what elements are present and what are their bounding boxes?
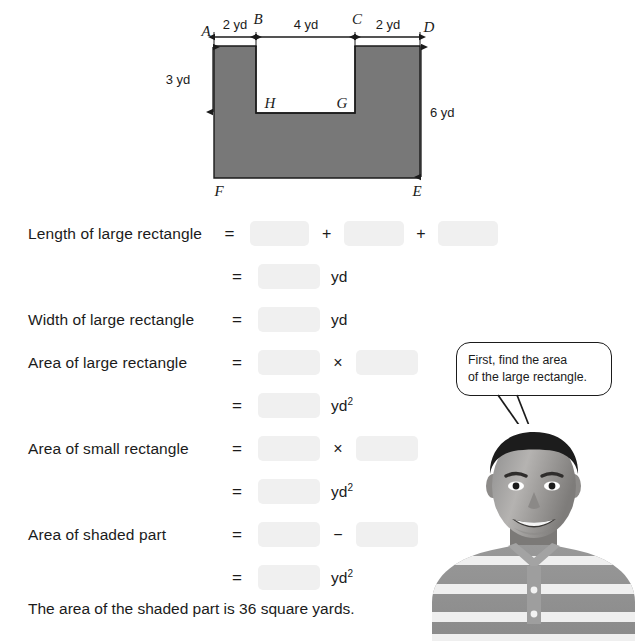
row-label-area-shaded: Area of shaded part	[28, 526, 232, 544]
speech-bubble: First, find the area of the large rectan…	[456, 342, 612, 396]
answer-blank-shaded-result[interactable]	[258, 565, 320, 590]
row-area-large-result: = yd2	[28, 384, 498, 427]
row-length-large-rectangle: Length of large rectangle = + +	[28, 212, 498, 255]
equals-sign: =	[232, 568, 258, 588]
answer-blank-length-2[interactable]	[344, 221, 404, 246]
conclusion-sentence: The area of the shaded part is 36 square…	[28, 600, 355, 618]
dim-label-right: 6 yd	[430, 105, 455, 120]
vertex-label-F: F	[213, 183, 224, 199]
speech-bubble-line-2: of the large rectangle.	[468, 369, 600, 386]
dim-label-top-left: 2 yd	[223, 17, 248, 32]
shirt-button-bottom	[531, 611, 538, 618]
dim-label-top-right: 2 yd	[376, 17, 401, 32]
answer-blank-shaded-2[interactable]	[356, 522, 418, 547]
answer-blank-area-large-1[interactable]	[258, 350, 320, 375]
plus-operator-1: +	[309, 225, 344, 243]
answer-blank-length-result[interactable]	[258, 264, 320, 289]
row-width-large-rectangle: Width of large rectangle = yd	[28, 298, 498, 341]
vertex-label-D: D	[423, 19, 435, 35]
shaded-region	[214, 46, 420, 178]
dim-label-top-middle: 4 yd	[294, 17, 319, 32]
equals-sign: =	[232, 482, 258, 502]
vertex-label-B: B	[253, 11, 262, 27]
answer-blank-length-1[interactable]	[250, 221, 310, 246]
answer-blank-area-small-result[interactable]	[258, 479, 320, 504]
equals-sign: =	[232, 353, 258, 373]
unit-exponent: 2	[347, 396, 353, 407]
row-label-area-large: Area of large rectangle	[28, 354, 232, 372]
vertex-label-H: H	[264, 95, 277, 111]
row-label-width-large: Width of large rectangle	[28, 311, 232, 329]
row-label-area-small: Area of small rectangle	[28, 440, 232, 458]
pupil-right	[549, 483, 556, 490]
dim-label-left: 3 yd	[166, 72, 191, 87]
times-operator-2: ×	[320, 440, 356, 458]
times-operator-1: ×	[320, 354, 356, 372]
row-label-length-large: Length of large rectangle	[28, 225, 224, 243]
vertex-label-G: G	[337, 95, 348, 111]
unit-exponent: 2	[347, 568, 353, 579]
vertex-label-E: E	[411, 183, 421, 199]
equals-sign: =	[232, 525, 258, 545]
minus-operator: −	[320, 526, 356, 544]
equals-sign: =	[232, 396, 258, 416]
unit-yd-squared: yd2	[331, 568, 353, 587]
equals-sign: =	[232, 439, 258, 459]
speech-bubble-line-1: First, find the area	[468, 352, 600, 369]
unit-yd-text: yd	[331, 397, 347, 414]
vertex-label-A: A	[200, 23, 211, 39]
row-length-result: = yd	[28, 255, 498, 298]
geometry-figure: 2 yd 4 yd 2 yd 3 yd 6 yd A B C D E F G H	[0, 0, 643, 205]
answer-blank-area-small-1[interactable]	[258, 436, 320, 461]
row-area-large-rectangle: Area of large rectangle = ×	[28, 341, 498, 384]
equals-sign: =	[224, 224, 249, 244]
answer-blank-area-large-result[interactable]	[258, 393, 320, 418]
figure-svg: 2 yd 4 yd 2 yd 3 yd 6 yd A B C D E F G H	[0, 0, 643, 205]
student-photo	[424, 424, 643, 641]
shirt-button-top	[531, 587, 538, 594]
answer-blank-shaded-1[interactable]	[258, 522, 320, 547]
unit-yd: yd	[331, 268, 347, 286]
equals-sign: =	[232, 267, 258, 287]
plus-operator-2: +	[404, 225, 439, 243]
unit-yd-squared: yd2	[331, 396, 353, 415]
equals-sign: =	[232, 310, 258, 330]
unit-yd-text: yd	[331, 569, 347, 586]
vertex-label-C: C	[352, 11, 363, 27]
answer-blank-area-small-2[interactable]	[356, 436, 418, 461]
answer-blank-width[interactable]	[258, 307, 320, 332]
unit-yd: yd	[331, 311, 347, 329]
unit-yd-squared: yd2	[331, 482, 353, 501]
unit-yd-text: yd	[331, 483, 347, 500]
unit-exponent: 2	[347, 482, 353, 493]
pupil-left	[513, 483, 520, 490]
answer-blank-area-large-2[interactable]	[356, 350, 418, 375]
answer-blank-length-3[interactable]	[438, 221, 498, 246]
